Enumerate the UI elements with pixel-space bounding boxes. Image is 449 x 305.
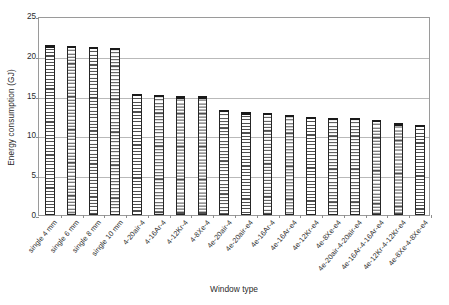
bar-top-cap bbox=[198, 96, 208, 98]
bar bbox=[132, 94, 142, 215]
bar bbox=[394, 123, 404, 215]
y-tick-label: 5 bbox=[20, 172, 36, 180]
x-tick-label: 4-16Ar-4 bbox=[143, 218, 169, 246]
bar bbox=[89, 47, 99, 215]
bar bbox=[415, 125, 425, 215]
bar bbox=[110, 48, 120, 215]
bar-top-cap bbox=[89, 47, 99, 49]
bar bbox=[67, 46, 77, 215]
bar bbox=[198, 96, 208, 215]
bar bbox=[285, 115, 295, 215]
bar bbox=[372, 120, 382, 215]
x-tick-label: 4-12Kr-4 bbox=[164, 218, 190, 246]
bar-top-cap bbox=[45, 45, 55, 47]
plot-area bbox=[38, 17, 430, 216]
bar-top-cap bbox=[219, 110, 229, 112]
bar-top-cap bbox=[154, 95, 164, 97]
bar bbox=[219, 110, 229, 215]
x-axis-title: Window type bbox=[38, 284, 430, 294]
bar-top-cap bbox=[415, 125, 425, 127]
bar-top-cap bbox=[263, 113, 273, 115]
bar bbox=[176, 96, 186, 215]
bar-top-cap bbox=[67, 46, 77, 48]
y-tick-label: 0 bbox=[20, 212, 36, 220]
bar bbox=[154, 95, 164, 215]
y-tick-label: 25 bbox=[20, 13, 36, 21]
bar-top-cap bbox=[241, 112, 251, 114]
bar bbox=[45, 45, 55, 215]
bar-top-cap bbox=[328, 118, 338, 120]
y-tick-label: 20 bbox=[20, 53, 36, 61]
bar-top-cap bbox=[176, 96, 186, 98]
bar-top-cap bbox=[350, 118, 360, 120]
y-tick-label: 15 bbox=[20, 93, 36, 101]
bar-top-cap bbox=[285, 115, 295, 117]
bar bbox=[263, 113, 273, 215]
bar bbox=[328, 118, 338, 215]
bar-series bbox=[39, 18, 429, 215]
bar bbox=[350, 118, 360, 215]
y-axis-title-text: Energy consumption (GJ) bbox=[7, 69, 16, 166]
bar-top-cap bbox=[306, 117, 316, 119]
y-tick-label: 10 bbox=[20, 132, 36, 140]
x-axis-tick-labels: single 4 mmsingle 6 mmsingle 8 mmsingle … bbox=[38, 218, 430, 280]
y-axis-tick-labels: 0510152025 bbox=[18, 0, 36, 305]
x-tick-label: 4e-8Xe-4-8Xe-e4 bbox=[386, 218, 430, 268]
chart-figure: Energy consumption (GJ) 0510152025 singl… bbox=[0, 0, 449, 305]
bar bbox=[306, 117, 316, 215]
bar-top-cap bbox=[372, 120, 382, 122]
x-tick-mark bbox=[431, 215, 432, 218]
bar-top-cap bbox=[394, 123, 404, 125]
bar-top-cap bbox=[110, 48, 120, 50]
bar bbox=[241, 112, 251, 215]
bar-top-cap bbox=[132, 94, 142, 96]
